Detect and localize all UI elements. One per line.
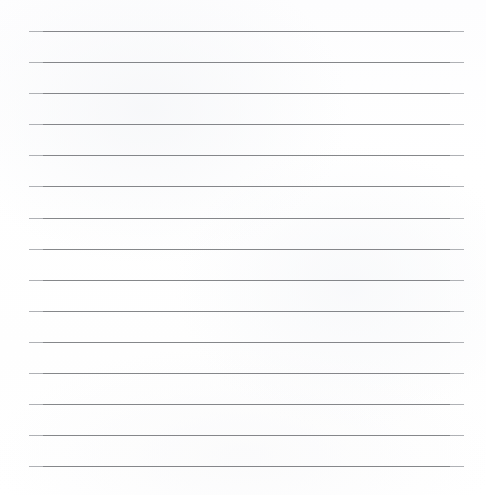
page-text-content[interactable] [29,31,464,471]
lined-paper-sheet [0,0,486,495]
